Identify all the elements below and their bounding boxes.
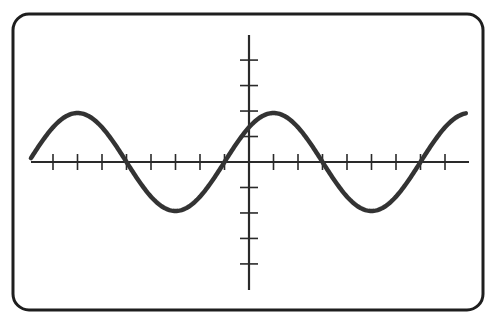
sine-wave-diagram	[0, 0, 492, 322]
oscilloscope-figure	[0, 0, 492, 322]
